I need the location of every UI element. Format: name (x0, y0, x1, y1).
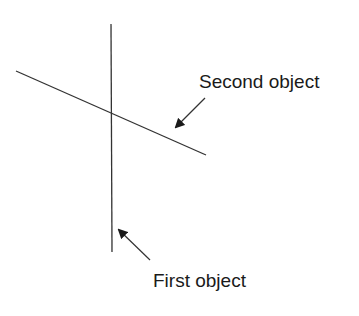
second-object-arrow-icon (176, 98, 205, 127)
second-object-label: Second object (199, 71, 320, 92)
first-object-line (111, 24, 112, 252)
first-object-arrow-icon (119, 230, 150, 260)
first-object-label: First object (153, 270, 247, 291)
diagram-canvas: Second object First object (0, 0, 359, 316)
